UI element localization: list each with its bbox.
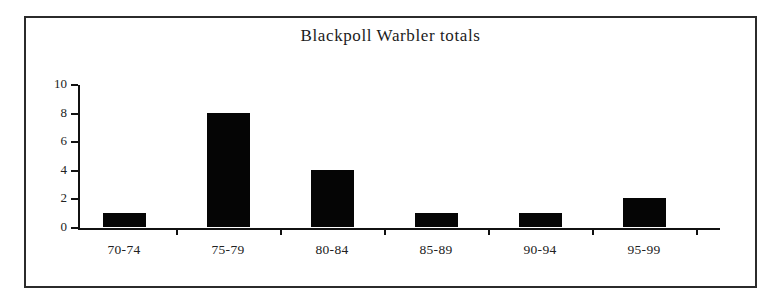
bar (103, 213, 146, 227)
x-axis-category-label: 90-94 (524, 243, 557, 257)
x-axis-tick (488, 230, 490, 235)
chart-figure: Blackpoll Warbler totals 0246810 70-7475… (0, 0, 781, 301)
y-axis-tick: 8 (71, 113, 78, 115)
bar (519, 213, 562, 227)
x-axis-line (78, 228, 720, 230)
y-axis-tick: 10 (71, 84, 78, 86)
y-axis-line (78, 85, 80, 229)
x-axis-category-label: 70-74 (108, 243, 141, 257)
y-axis-tick-label: 10 (54, 77, 67, 90)
y-axis-tick-label: 6 (61, 134, 68, 147)
x-axis-category-label: 95-99 (628, 243, 661, 257)
bar (415, 213, 458, 227)
x-axis-tick (176, 230, 178, 235)
plot-area: 0246810 70-7475-7980-8485-8990-9495-99 (78, 85, 730, 228)
y-axis-tick: 6 (71, 141, 78, 143)
y-axis-tick: 0 (71, 227, 78, 229)
y-axis-tick: 4 (71, 170, 78, 172)
x-axis-tick (696, 230, 698, 235)
y-axis-tick-label: 8 (61, 106, 68, 119)
x-axis-tick (280, 230, 282, 235)
chart-title: Blackpoll Warbler totals (0, 26, 781, 46)
x-axis-tick (384, 230, 386, 235)
bar (311, 170, 354, 227)
y-axis-tick-label: 4 (61, 163, 68, 176)
bar (623, 198, 666, 227)
x-axis-category-label: 75-79 (212, 243, 245, 257)
x-axis-tick (592, 230, 594, 235)
y-axis-tick: 2 (71, 198, 78, 200)
bar (207, 113, 250, 227)
y-axis-tick-label: 0 (61, 220, 68, 233)
y-axis-tick-label: 2 (61, 192, 68, 205)
x-axis-category-label: 85-89 (420, 243, 453, 257)
x-axis-category-label: 80-84 (316, 243, 349, 257)
